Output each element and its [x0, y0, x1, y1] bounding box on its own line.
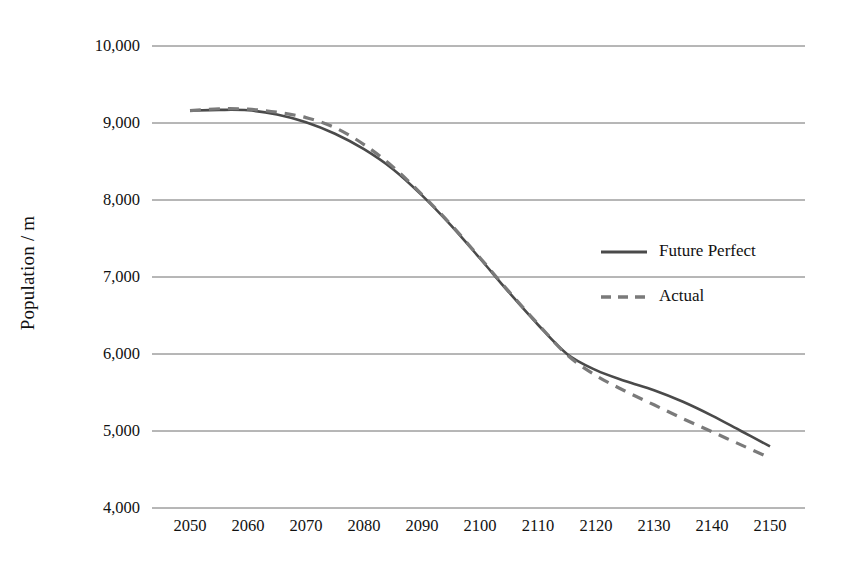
- x-tick-label: 2060: [232, 516, 265, 536]
- x-tick-label: 2080: [348, 516, 381, 536]
- x-tick-label: 2150: [754, 516, 787, 536]
- gridlines: [152, 46, 805, 508]
- x-tick-label: 2120: [580, 516, 613, 536]
- x-tick-label: 2110: [522, 516, 554, 536]
- legend-label-actual: Actual: [659, 286, 704, 306]
- x-tick-label: 2090: [406, 516, 439, 536]
- x-tick-label: 2130: [638, 516, 671, 536]
- population-projection-chart: Population / m 4,0005,0006,0007,0008,000…: [0, 0, 852, 570]
- legend-swatches: [601, 252, 647, 297]
- series-line-future-perfect: [190, 110, 770, 447]
- series-line-actual: [190, 109, 770, 458]
- x-tick-label: 2050: [174, 516, 207, 536]
- data-series: [190, 109, 770, 458]
- x-tick-label: 2070: [290, 516, 323, 536]
- x-tick-label: 2100: [464, 516, 497, 536]
- x-tick-label: 2140: [696, 516, 729, 536]
- plot-area: [0, 0, 852, 570]
- legend-label-future-perfect: Future Perfect: [659, 241, 756, 261]
